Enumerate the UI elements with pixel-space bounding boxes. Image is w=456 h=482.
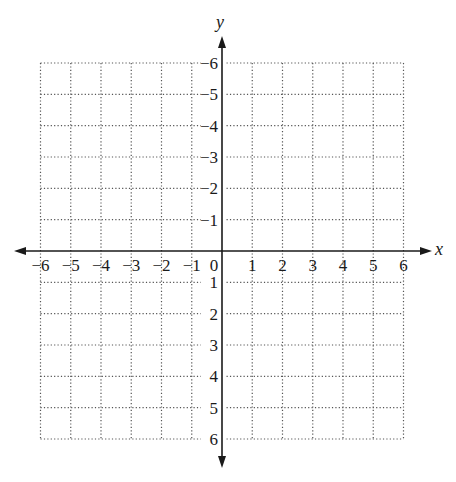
x-tick-label: 4 [339, 256, 348, 275]
axes [14, 36, 432, 468]
x-tick-label: −2 [152, 256, 170, 275]
x-tick-label: −5 [62, 256, 80, 275]
x-tick-label: 1 [248, 256, 257, 275]
x-axis-label: x [434, 239, 443, 259]
y-tick-label: 3 [210, 336, 219, 355]
y-axis-down-arrow-icon [218, 456, 226, 468]
x-tick-label: −6 [31, 256, 49, 275]
y-tick-label: −6 [200, 54, 218, 73]
x-axis-right-arrow-icon [420, 247, 432, 255]
y-tick-label: −3 [200, 148, 218, 167]
x-tick-label: 5 [369, 256, 378, 275]
x-tick-label: −1 [183, 256, 201, 275]
x-tick-label: −3 [122, 256, 140, 275]
x-tick-label: 2 [278, 256, 287, 275]
y-tick-label: 6 [210, 430, 219, 449]
y-tick-label: 4 [210, 367, 219, 386]
x-tick-label: 0 [210, 256, 219, 275]
coordinate-plane: −6−5−4−3−2−10123456654321−1−2−3−4−5−6 x … [0, 0, 456, 482]
y-axis-label: y [214, 12, 224, 32]
coordinate-plane-svg: −6−5−4−3−2−10123456654321−1−2−3−4−5−6 x … [0, 0, 456, 482]
y-tick-label: −4 [200, 117, 219, 136]
y-tick-label: −2 [200, 179, 218, 198]
y-tick-label: −5 [200, 85, 218, 104]
y-tick-label: −1 [200, 211, 218, 230]
x-tick-label: −4 [92, 256, 111, 275]
y-tick-label: 2 [210, 305, 219, 324]
y-axis-up-arrow-icon [218, 36, 226, 48]
y-tick-label: 5 [210, 399, 219, 418]
x-tick-label: 3 [309, 256, 318, 275]
x-tick-label: 6 [399, 256, 408, 275]
x-axis-left-arrow-icon [14, 247, 26, 255]
y-tick-label: 1 [210, 273, 219, 292]
